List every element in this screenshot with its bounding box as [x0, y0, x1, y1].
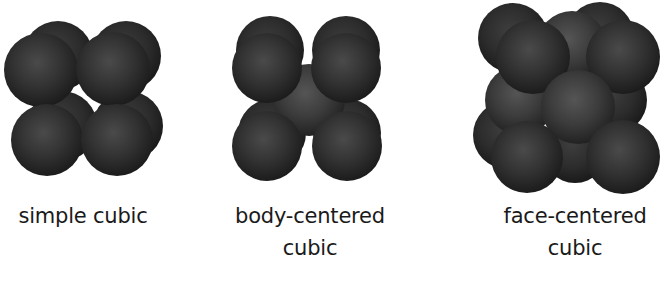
sphere-front-bottom-right: [81, 104, 153, 176]
sphere-front-top-left: [232, 33, 302, 103]
sphere-front-bottom-left: [491, 121, 563, 193]
face-centered-cubic-caption: face-centered cubic: [475, 200, 660, 264]
sphere-front-top-right: [311, 33, 381, 103]
sphere-front-bottom-left: [232, 111, 302, 181]
sphere-front-bottom-right: [312, 111, 382, 181]
face-centered-cubic-lattice: [473, 2, 660, 194]
body-centered-cubic-lattice: [232, 16, 382, 181]
simple-cubic-caption: simple cubic: [0, 200, 183, 232]
sphere-front-bottom-left: [11, 104, 83, 176]
cubic-unit-cells-figure: simple cubic body-centered cubic face-ce…: [0, 0, 660, 286]
caption-line: face-centered: [475, 200, 660, 232]
sphere-front-bottom-right: [586, 120, 660, 194]
caption-line: cubic: [475, 232, 660, 264]
caption-line: simple cubic: [0, 200, 183, 232]
body-centered-cubic-caption: body-centered cubic: [210, 200, 410, 264]
sphere-front-top-right: [76, 32, 150, 106]
simple-cubic-lattice: [4, 21, 163, 176]
caption-line: cubic: [210, 232, 410, 264]
sphere-front-top-left: [4, 33, 78, 107]
caption-line: body-centered: [210, 200, 410, 232]
lattice-illustrations: [0, 0, 660, 200]
